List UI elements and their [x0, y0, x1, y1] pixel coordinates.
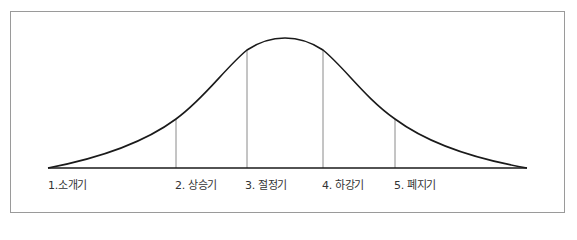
stage-label-decline: 4. 하강기 [322, 176, 364, 192]
stage-label-growth: 2. 상승기 [175, 176, 217, 192]
bell-curve [48, 38, 527, 168]
stage-label-maturity: 3. 절정기 [245, 176, 287, 192]
stage-label-introduction: 1.소개기 [48, 176, 87, 192]
stage-label-withdrawal: 5. 폐지기 [394, 176, 436, 192]
